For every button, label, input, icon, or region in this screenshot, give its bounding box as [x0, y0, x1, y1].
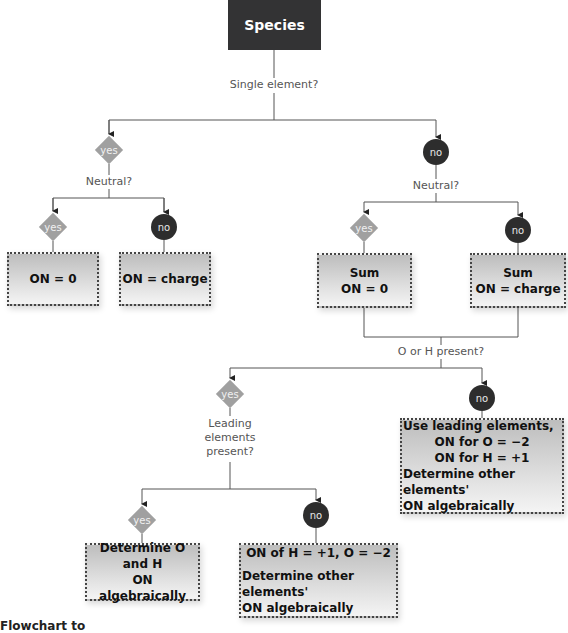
result-determine-oh: Determine O and H ON algebraically: [85, 543, 200, 601]
question-neutral-left: Neutral?: [79, 175, 139, 189]
question-neutral-right: Neutral?: [406, 179, 466, 193]
decision-oh-yes: yes: [216, 380, 244, 408]
question-leading-elements: Leading elements present?: [195, 417, 265, 459]
result-on-zero: ON = 0: [7, 252, 99, 306]
decision-right-neutral-yes: yes: [350, 214, 378, 242]
decision-single-yes: yes: [95, 136, 123, 164]
species-root-box: Species: [228, 0, 321, 50]
species-label: Species: [244, 17, 305, 33]
result-sum-zero: Sum ON = 0: [317, 253, 412, 308]
decision-right-neutral-no: no: [505, 217, 531, 243]
flowchart-connectors: [0, 0, 568, 633]
result-use-leading-elements: Use leading elements, ON for O = −2 ON f…: [400, 418, 564, 514]
figure-caption: Flowchart to: [0, 619, 85, 633]
question-single-element: Single element?: [214, 78, 334, 92]
question-o-or-h: O or H present?: [386, 345, 496, 359]
result-on-charge: ON = charge: [119, 252, 211, 306]
decision-left-neutral-yes: yes: [39, 213, 67, 241]
result-sum-charge: Sum ON = charge: [470, 253, 566, 308]
result-on-of-h: ON of H = +1, O = −2 Determine other ele…: [239, 543, 398, 618]
decision-left-neutral-no: no: [151, 214, 177, 240]
decision-single-no: no: [423, 139, 449, 165]
decision-leading-no: no: [303, 502, 329, 528]
decision-oh-no: no: [469, 385, 495, 411]
decision-leading-yes: yes: [128, 506, 156, 534]
